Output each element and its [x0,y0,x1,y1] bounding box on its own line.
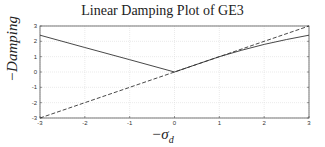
y-tick-label: -2 [32,100,38,106]
x-tick-label: -3 [37,120,43,126]
y-tick-label: -3 [32,115,38,121]
x-tick-label: 3 [307,120,311,126]
y-tick-label: -1 [32,84,38,90]
y-tick-label: 0 [34,69,38,75]
x-tick-label: 0 [173,120,177,126]
x-tick-label: 1 [218,120,222,126]
x-tick-label: 2 [262,120,266,126]
plot-area: -3-2-10123-3-2-10123 [0,0,325,147]
y-tick-label: 1 [34,54,38,60]
y-tick-label: 3 [34,23,38,29]
y-tick-label: 2 [34,38,38,44]
x-tick-label: -1 [127,120,133,126]
x-tick-label: -2 [82,120,88,126]
